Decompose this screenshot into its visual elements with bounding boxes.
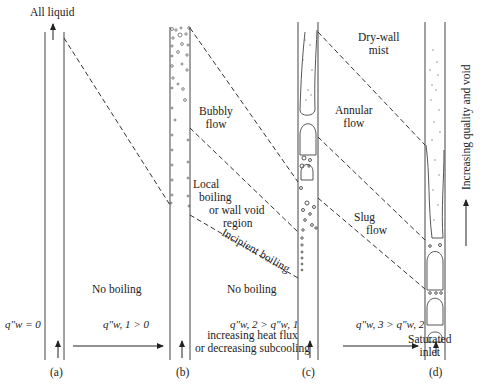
region-no-boiling-ab: No boiling (92, 283, 142, 296)
tube-c-two-phase (300, 30, 318, 271)
region-slug-flow: Slug flow (354, 211, 387, 237)
increasing-quality-label: Increasing quality and void (460, 64, 472, 190)
saturated-inlet-label: Saturated inlet (408, 333, 451, 359)
region-local-boiling: Local boiling or wall void region (193, 178, 265, 230)
region-bubbly-flow: Bubbly flow (199, 105, 233, 131)
flux-label-b: q″w, 1 > 0 (103, 318, 149, 331)
tube-d-mist (429, 49, 440, 220)
flux-label-a: q″w = 0 (5, 318, 41, 331)
region-annular-flow: Annular flow (335, 104, 373, 130)
all-liquid-label: All liquid (30, 6, 74, 19)
panel-label-b: (b) (176, 366, 189, 379)
panel-label-d: (d) (429, 366, 442, 379)
region-no-boiling-bc: No boiling (227, 283, 277, 296)
flux-label-d: q″w, 3 > q″w, 2 (356, 318, 424, 331)
tube-d-two-phase (426, 145, 444, 342)
region-dry-wall-mist: Dry-wall mist (358, 31, 400, 57)
bottom-caption: increasing heat flux or decreasing subco… (195, 329, 310, 355)
panel-label-c: (c) (302, 366, 315, 379)
tube-b-bubbles (170, 27, 190, 207)
panel-label-a: (a) (50, 366, 63, 379)
